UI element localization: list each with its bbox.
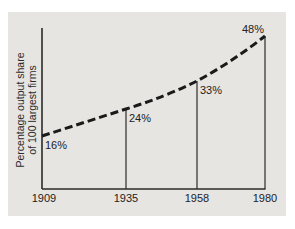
chart: Percentage output share of 100 largest f… [0,0,295,229]
data-label-1980: 48% [242,23,264,35]
data-label-1958: 33% [200,84,222,96]
x-tick-1909: 1909 [32,192,56,204]
y-axis-title-line-1: Percentage output share [14,52,26,167]
data-label-1909: 16% [45,139,67,151]
y-axis-title: Percentage output share of 100 largest f… [14,52,38,167]
x-tick-1935: 1935 [114,192,138,204]
y-axis-title-line-2: of 100 largest firms [26,65,38,154]
x-tick-1958: 1958 [185,192,209,204]
x-tick-1980: 1980 [253,192,277,204]
data-label-1935: 24% [129,112,151,124]
